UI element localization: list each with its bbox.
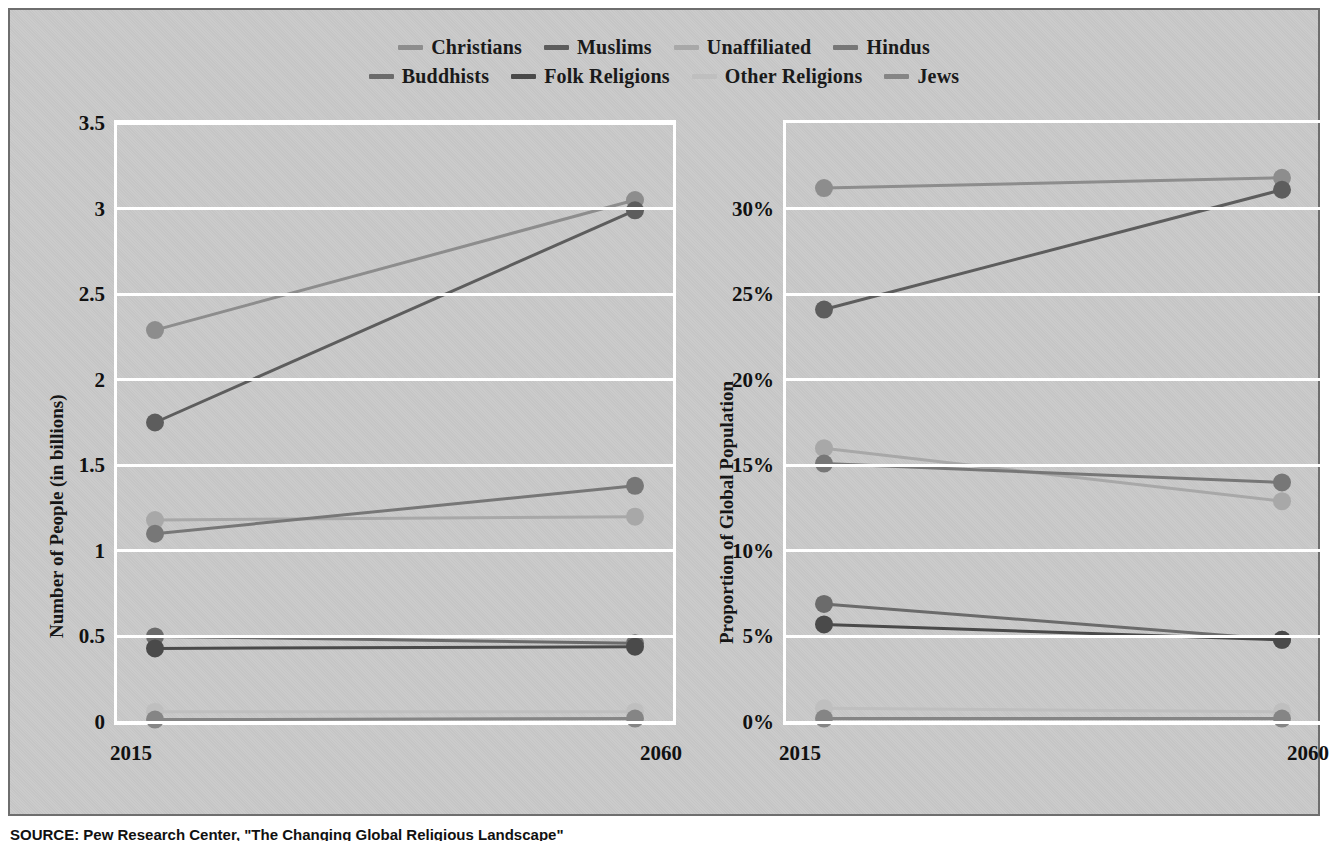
figure-container: Christians Muslims Unaffiliated Hindus B… (8, 8, 1320, 816)
legend-item-other-religions[interactable]: Other Religions (692, 65, 863, 88)
y-tick-label: 3.5 (79, 111, 105, 136)
legend-item-jews[interactable]: Jews (884, 65, 959, 88)
y-tick-label: 2 (95, 367, 106, 392)
gridline (786, 635, 1320, 638)
legend-label-unaffiliated: Unaffiliated (707, 36, 812, 59)
y-tick-label: 5% (743, 624, 775, 649)
legend-item-muslims[interactable]: Muslims (544, 36, 652, 59)
source-note: SOURCE: Pew Research Center, "The Changi… (10, 826, 564, 841)
legend-label-jews: Jews (917, 65, 959, 88)
series-lines-right (786, 123, 1320, 722)
legend-swatch-muslims (544, 45, 569, 50)
data-point-hindus-2060 (1273, 473, 1291, 491)
legend-label-buddhists: Buddhists (402, 65, 489, 88)
gridline (117, 122, 673, 125)
y-tick-label: 20% (732, 367, 774, 392)
data-point-christians-2015 (146, 321, 164, 339)
gridline (117, 721, 673, 724)
gridline (117, 549, 673, 552)
y-tick-label: 0.5 (79, 624, 105, 649)
data-point-muslims-2015 (815, 301, 833, 319)
legend-item-unaffiliated[interactable]: Unaffiliated (674, 36, 812, 59)
gridline (786, 378, 1320, 381)
legend-swatch-unaffiliated (674, 45, 699, 50)
data-point-christians-2015 (815, 179, 833, 197)
data-point-folk-religions-2015 (146, 639, 164, 657)
data-point-folk-religions-2060 (626, 638, 644, 656)
data-point-hindus-2060 (626, 477, 644, 495)
legend-label-christians: Christians (431, 36, 522, 59)
series-line-christians (824, 178, 1282, 188)
y-axis-title-left: Number of People (in billions) (46, 395, 68, 639)
y-tick-label: 2.5 (79, 282, 105, 307)
series-line-other-religions (824, 708, 1282, 711)
gridline (786, 721, 1320, 724)
legend-row-2: Buddhists Folk Religions Other Religions… (369, 65, 960, 88)
legend-item-buddhists[interactable]: Buddhists (369, 65, 489, 88)
series-line-folk-religions (155, 647, 635, 649)
legend-item-folk-religions[interactable]: Folk Religions (511, 65, 670, 88)
series-line-jews (155, 719, 635, 720)
gridline (786, 464, 1320, 467)
series-line-christians (155, 200, 635, 330)
chart-legend: Christians Muslims Unaffiliated Hindus B… (10, 36, 1318, 88)
legend-label-folk-religions: Folk Religions (544, 65, 670, 88)
data-point-jews-2060 (1273, 710, 1291, 728)
y-tick-label: 0% (743, 710, 775, 735)
y-tick-label: 1.5 (79, 453, 105, 478)
y-tick-label: 10% (732, 538, 774, 563)
series-line-hindus (155, 486, 635, 534)
data-point-unaffiliated-2060 (626, 508, 644, 526)
y-tick-label: 0 (95, 710, 106, 735)
gridline (117, 378, 673, 381)
y-axis-title-right: Proportion of Global Population (716, 381, 738, 644)
data-point-hindus-2015 (146, 525, 164, 543)
y-tick-label: 1 (95, 538, 106, 563)
y-tick-label: 30% (732, 196, 774, 221)
legend-item-christians[interactable]: Christians (398, 36, 522, 59)
data-point-unaffiliated-2060 (1273, 492, 1291, 510)
plot-area-right: 0%5%10%15%20%25%30% (783, 120, 1323, 725)
gridline (786, 207, 1320, 210)
data-point-muslims-2060 (626, 201, 644, 219)
data-point-unaffiliated-2015 (815, 439, 833, 457)
gridline (117, 207, 673, 210)
gridline (117, 464, 673, 467)
chart-panel-left: 00.511.522.533.5 2015 2060 (114, 120, 676, 770)
data-point-muslims-2015 (146, 414, 164, 432)
legend-swatch-other-religions (692, 74, 717, 79)
gridline (786, 549, 1320, 552)
x-tick-left-2060: 2060 (640, 741, 682, 766)
data-point-buddhists-2015 (815, 595, 833, 613)
y-tick-label: 3 (95, 196, 106, 221)
series-line-unaffiliated (155, 517, 635, 520)
y-tick-label: 25% (732, 282, 774, 307)
y-tick-label: 15% (732, 453, 774, 478)
legend-swatch-folk-religions (511, 74, 536, 79)
legend-swatch-christians (398, 45, 423, 50)
plot-area-left: 00.511.522.533.5 (114, 120, 676, 725)
x-tick-left-2015: 2015 (110, 741, 152, 766)
x-tick-right-2060: 2060 (1287, 741, 1329, 766)
data-point-muslims-2060 (1273, 181, 1291, 199)
data-point-jews-2060 (626, 710, 644, 728)
legend-swatch-hindus (833, 45, 858, 50)
gridline (117, 635, 673, 638)
legend-label-other-religions: Other Religions (725, 65, 863, 88)
x-tick-right-2015: 2015 (779, 741, 821, 766)
legend-swatch-buddhists (369, 74, 394, 79)
legend-item-hindus[interactable]: Hindus (833, 36, 929, 59)
data-point-jews-2015 (815, 710, 833, 728)
data-point-folk-religions-2015 (815, 615, 833, 633)
legend-swatch-jews (884, 74, 909, 79)
gridline (786, 293, 1320, 296)
series-line-unaffiliated (824, 448, 1282, 501)
series-lines-left (117, 123, 673, 722)
data-point-folk-religions-2060 (1273, 631, 1291, 649)
legend-label-hindus: Hindus (866, 36, 929, 59)
chart-panel-right: 0%5%10%15%20%25%30% 2015 2060 (783, 120, 1323, 770)
legend-row-1: Christians Muslims Unaffiliated Hindus (398, 36, 930, 59)
legend-label-muslims: Muslims (577, 36, 652, 59)
series-line-muslims (155, 210, 635, 422)
gridline (117, 293, 673, 296)
